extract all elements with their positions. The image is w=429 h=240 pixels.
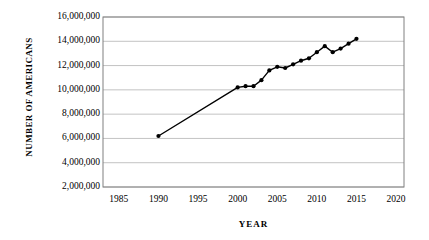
- data-point-marker: [259, 78, 263, 82]
- x-axis-tick-label: 2015: [336, 194, 376, 204]
- data-point-marker: [236, 85, 240, 89]
- data-point-marker: [251, 84, 255, 88]
- x-axis-tick-label: 2010: [297, 194, 337, 204]
- data-point-marker: [243, 84, 247, 88]
- data-point-marker: [275, 65, 279, 69]
- x-axis-tick-label: 2005: [257, 194, 297, 204]
- data-point-marker: [315, 50, 319, 54]
- plot-area: [0, 0, 429, 240]
- x-axis-title: YEAR: [103, 219, 404, 229]
- x-axis-tick-label: 1990: [138, 194, 178, 204]
- data-point-marker: [267, 68, 271, 72]
- data-point-marker: [299, 59, 303, 63]
- x-axis-tick-label: 2000: [218, 194, 258, 204]
- plot-frame: [103, 17, 404, 187]
- data-point-marker: [331, 50, 335, 54]
- data-point-marker: [283, 66, 287, 70]
- data-point-marker: [323, 44, 327, 48]
- data-point-marker: [156, 134, 160, 138]
- data-point-marker: [291, 62, 295, 66]
- data-point-marker: [307, 56, 311, 60]
- x-axis-tick-label: 2020: [376, 194, 416, 204]
- x-axis-tick-label: 1985: [99, 194, 139, 204]
- chart-container: NUMBER OF AMERICANS 2,000,0004,000,0006,…: [0, 0, 429, 240]
- data-point-marker: [339, 46, 343, 50]
- x-axis-tick-label: 1995: [178, 194, 218, 204]
- series-line: [158, 39, 356, 136]
- data-point-marker: [346, 42, 350, 46]
- data-point-marker: [354, 37, 358, 41]
